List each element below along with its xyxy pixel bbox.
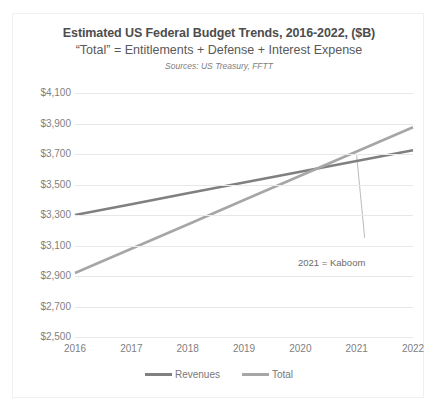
clipped-text-right: · [262, 0, 266, 3]
y-axis-tick-label: $4,100 [17, 88, 71, 98]
annotation-leader-line [357, 156, 365, 238]
y-axis-tick-label: $2,700 [17, 302, 71, 312]
y-axis-tick-label: $3,900 [17, 119, 71, 129]
y-axis: $4,100$3,900$3,700$3,500$3,300$3,100$2,9… [13, 93, 71, 337]
y-axis-tick-label: $3,700 [17, 149, 71, 159]
x-axis-tick-label: 2021 [334, 343, 380, 354]
x-axis: 2016201720182019202020212022 [75, 343, 413, 357]
gridline [75, 215, 413, 216]
series-line-revenues [75, 150, 413, 215]
plot-area [75, 93, 413, 337]
gridline [75, 124, 413, 125]
legend-swatch-icon [242, 373, 269, 376]
series-line-total [75, 127, 413, 273]
x-axis-tick-label: 2017 [108, 343, 154, 354]
gridline [75, 246, 413, 247]
chart-title-block: Estimated US Federal Budget Trends, 2016… [13, 25, 425, 72]
annotation-kaboom: 2021 = Kaboom [298, 257, 365, 268]
x-axis-tick-label: 2018 [165, 343, 211, 354]
gridline [75, 185, 413, 186]
chart-subtitle: “Total” = Entitlements + Defense + Inter… [13, 42, 425, 59]
y-axis-tick-label: $3,100 [17, 241, 71, 251]
chart-source-note: Sources: US Treasury, FFTT [13, 61, 425, 72]
gridline [75, 307, 413, 308]
gridline [75, 154, 413, 155]
y-axis-tick-label: $2,900 [17, 271, 71, 281]
clipped-text-strip: ·· · [0, 0, 438, 12]
chart-legend: RevenuesTotal [13, 369, 425, 380]
y-axis-tick-label: $3,300 [17, 210, 71, 220]
legend-item[interactable]: Total [242, 369, 293, 380]
x-axis-tick-label: 2016 [52, 343, 98, 354]
legend-item-label: Total [272, 369, 293, 380]
x-axis-tick-label: 2019 [221, 343, 267, 354]
y-axis-tick-label: $3,500 [17, 180, 71, 190]
legend-item[interactable]: Revenues [145, 369, 220, 380]
gridline [75, 337, 413, 338]
x-axis-tick-label: 2020 [277, 343, 323, 354]
legend-item-label: Revenues [175, 369, 220, 380]
page-title: Estimated US Federal Budget Trends, 2016… [13, 25, 425, 41]
clipped-text-left: ·· [52, 0, 59, 3]
gridline [75, 93, 413, 94]
chart-container: Estimated US Federal Budget Trends, 2016… [12, 13, 424, 398]
gridline [75, 276, 413, 277]
x-axis-tick-label: 2022 [390, 343, 436, 354]
y-axis-tick-label: $2,500 [17, 332, 71, 342]
legend-swatch-icon [145, 373, 172, 376]
